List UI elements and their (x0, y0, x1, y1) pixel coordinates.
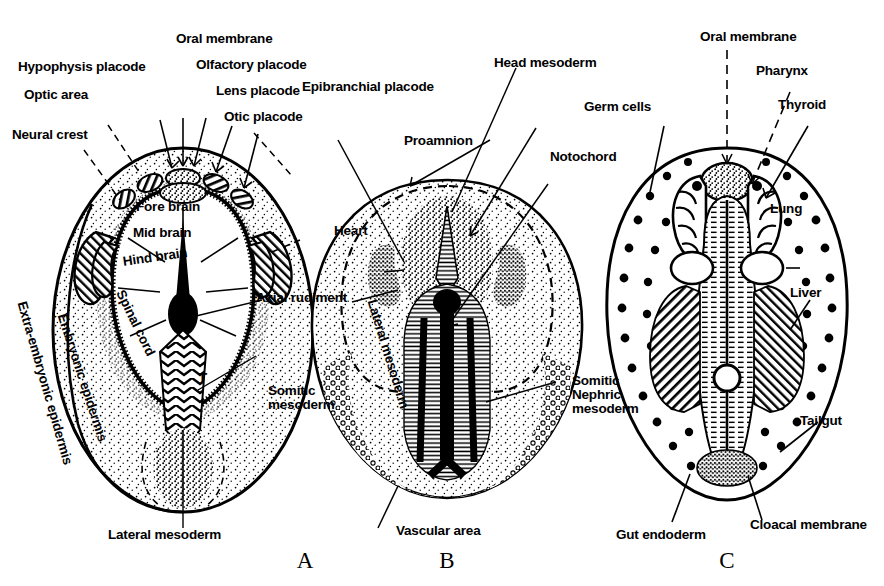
label-oral-membrane-c: Oral membrane (700, 30, 796, 44)
label-heart: Heart (334, 224, 368, 238)
label-proamnion: Proamnion (404, 134, 473, 148)
label-otic-placode: Otic placode (224, 110, 303, 124)
label-olfactory-placode: Olfactory placode (196, 58, 307, 72)
label-head-mesoderm: Head mesoderm (494, 56, 596, 70)
label-liver: Liver (790, 286, 821, 300)
diagram-artwork (0, 0, 884, 586)
label-optic-area: Optic area (24, 88, 88, 102)
label-lens-placode: Lens placode (216, 84, 300, 98)
label-thyroid: Thyroid (778, 98, 826, 112)
label-t-marker: T (198, 370, 207, 386)
label-cloacal-membrane: Cloacal membrane (750, 518, 867, 532)
label-germ-cells: Germ cells (584, 100, 651, 114)
label-somitic-b: Somitic (572, 374, 639, 388)
panel-a-artwork (53, 118, 313, 528)
label-axial-rudiment: Axial rudiment (256, 291, 347, 305)
label-lateral-mesoderm-a: Lateral mesoderm (108, 528, 221, 542)
panel-letter-c: C (719, 548, 734, 574)
label-lung: Lung (770, 202, 802, 216)
panel-letter-b: B (439, 548, 454, 574)
label-tailgut: Tailgut (800, 414, 842, 428)
label-neural-crest: Neural crest (12, 128, 88, 142)
label-somitic-mesoderm-a: Somitic mesoderm (268, 384, 335, 412)
panel-letter-a: A (297, 548, 314, 574)
label-fore-brain: Fore brain (136, 200, 200, 214)
label-mid-brain: Mid brain (133, 226, 191, 240)
label-oral-membrane-a: Oral membrane (176, 32, 272, 46)
label-mesoderm-b: mesoderm (572, 402, 639, 416)
label-pharynx: Pharynx (756, 64, 808, 78)
label-notochord: Notochord (550, 150, 616, 164)
figure-canvas: Hypophysis placode Optic area Neural cre… (0, 0, 884, 586)
label-vascular-area: Vascular area (396, 524, 480, 538)
label-epibranchial-placode: Epibranchial placode (302, 80, 434, 94)
label-somitic-nephric-mesoderm: Somitic Nephric mesoderm (572, 374, 639, 415)
label-somitic-mesoderm-a-line1: Somitic (268, 384, 335, 398)
label-somitic-mesoderm-a-line2: mesoderm (268, 398, 335, 412)
label-hypophysis-placode: Hypophysis placode (18, 60, 146, 74)
label-nephric-b: Nephric (572, 388, 639, 402)
label-gut-endoderm: Gut endoderm (616, 528, 706, 542)
